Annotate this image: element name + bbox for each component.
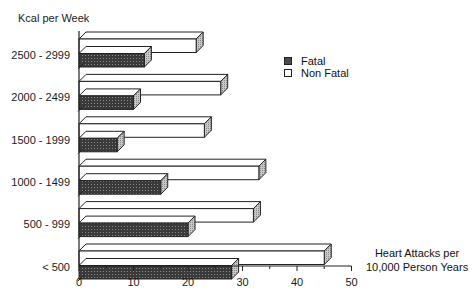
x-axis-title: Heart Attacks per 10,000 Person Years [366,246,468,274]
x-axis-title-line1: Heart Attacks per [366,246,468,260]
x-axis-title-line2: 10,000 Person Years [366,260,468,274]
bar-fatal [79,89,141,110]
x-tick-label: 40 [282,276,312,288]
bar-fatal [79,216,195,237]
nonfatal-swatch-icon [284,69,292,77]
x-tick-label: 0 [64,276,94,288]
x-tick-label: 50 [337,276,367,288]
category-label: 2500 - 2999 [0,49,70,61]
legend-label: Non Fatal [301,67,349,79]
x-tick-label: 10 [119,276,149,288]
fatal-swatch-icon [284,57,292,65]
legend-label: Fatal [301,55,325,67]
category-label: 500 - 999 [0,218,70,230]
bar-fatal [79,259,239,280]
legend-item-nonfatal: Non Fatal [284,67,349,79]
legend-item-fatal: Fatal [284,55,325,67]
x-tick-label: 20 [173,276,203,288]
bar-fatal [79,47,151,68]
x-tick-label: 30 [228,276,258,288]
bar-fatal [79,131,124,152]
bar-fatal [79,174,168,195]
category-label: 1000 - 1499 [0,176,70,188]
category-label: 1500 - 1999 [0,134,70,146]
y-axis-title: Kcal per Week [18,12,89,24]
category-label: < 500 [0,261,70,273]
category-label: 2000 - 2499 [0,91,70,103]
